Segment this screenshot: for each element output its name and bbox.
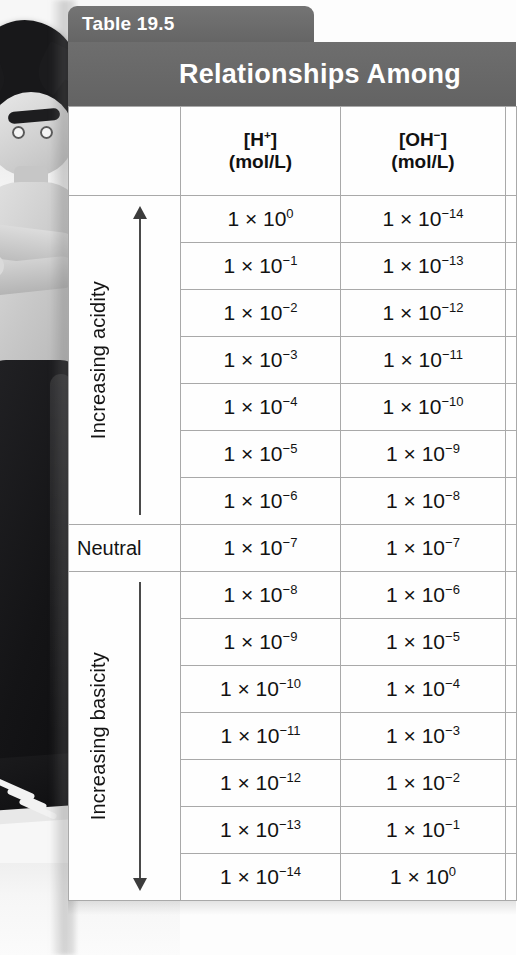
hydroxide-concentration-cell: 1 × 100 [341,854,506,901]
table-body: Increasing acidity1 × 1001 × 10−141 × 10… [69,196,517,901]
hydrogen-concentration-cell: 1 × 10−4 [181,384,341,431]
hydroxide-concentration-cell: 1 × 10−8 [341,478,506,525]
truncated-cell [506,196,517,243]
truncated-cell [506,854,517,901]
table-row: Increasing acidity1 × 1001 × 10−14 [69,196,517,243]
hydrogen-concentration-cell: 1 × 10−9 [181,619,341,666]
table-row: Increasing basicity1 × 10−81 × 10−6 [69,572,517,619]
column-header-truncated [506,107,517,196]
truncated-cell [506,807,517,854]
scale-label-increasing-basicity: Increasing basicity [69,572,181,901]
figure-eye-left [12,126,25,139]
column-header-hydroxide: [OH−] (mol/L) [341,107,506,196]
column-header-hydroxide-formula: [OH−] [341,129,505,151]
hydroxide-concentration-cell: 1 × 10−1 [341,807,506,854]
column-header-hydrogen: [H+] (mol/L) [181,107,341,196]
table-figure: Table 19.5 Relationships Among [H+] (mol… [68,6,516,901]
hydroxide-concentration-cell: 1 × 10−12 [341,290,506,337]
hydrogen-concentration-cell: 1 × 10−14 [181,854,341,901]
scale-label-neutral: Neutral [69,525,181,572]
truncated-cell [506,525,517,572]
ph-concentration-table: [H+] (mol/L) [OH−] (mol/L) Increasing ac… [68,106,517,901]
table-head: [H+] (mol/L) [OH−] (mol/L) [69,107,517,196]
increasing-basicity-label: Increasing basicity [87,652,110,820]
hydrogen-concentration-cell: 1 × 10−2 [181,290,341,337]
hydrogen-concentration-cell: 1 × 10−12 [181,760,341,807]
hydrogen-concentration-cell: 1 × 100 [181,196,341,243]
hydroxide-concentration-cell: 1 × 10−13 [341,243,506,290]
hydrogen-concentration-cell: 1 × 10−8 [181,572,341,619]
column-header-hydrogen-units: (mol/L) [181,151,340,173]
hydrogen-concentration-cell: 1 × 10−7 [181,525,341,572]
truncated-cell [506,619,517,666]
column-header-hydrogen-formula: [H+] [181,129,340,151]
basicity-arrow-shaft [139,582,141,879]
hydroxide-concentration-cell: 1 × 10−14 [341,196,506,243]
basicity-arrow-head-down-icon [133,878,147,891]
hydrogen-concentration-cell: 1 × 10−10 [181,666,341,713]
hydrogen-concentration-cell: 1 × 10−11 [181,713,341,760]
column-header-hydroxide-units: (mol/L) [341,151,505,173]
hydrogen-concentration-cell: 1 × 10−5 [181,431,341,478]
hydroxide-concentration-cell: 1 × 10−5 [341,619,506,666]
table-number-tab: Table 19.5 [68,6,314,42]
hydrogen-concentration-cell: 1 × 10−13 [181,807,341,854]
hydrogen-concentration-cell: 1 × 10−6 [181,478,341,525]
hydroxide-concentration-cell: 1 × 10−3 [341,713,506,760]
hydroxide-concentration-cell: 1 × 10−7 [341,525,506,572]
truncated-cell [506,713,517,760]
hydroxide-concentration-cell: 1 × 10−10 [341,384,506,431]
truncated-cell [506,572,517,619]
table-row: Neutral1 × 10−71 × 10−7 [69,525,517,572]
hydrogen-concentration-cell: 1 × 10−3 [181,337,341,384]
column-header-scale [69,107,181,196]
table-bottom-shade [68,901,516,915]
acidity-arrow-shaft [139,218,141,515]
truncated-cell [506,384,517,431]
truncated-cell [506,666,517,713]
hydroxide-concentration-cell: 1 × 10−6 [341,572,506,619]
hydroxide-concentration-cell: 1 × 10−11 [341,337,506,384]
acidity-arrow-head-up-icon [133,206,147,219]
neutral-label: Neutral [69,537,180,560]
increasing-acidity-label: Increasing acidity [87,281,110,439]
truncated-cell [506,290,517,337]
hydroxide-concentration-cell: 1 × 10−4 [341,666,506,713]
truncated-cell [506,478,517,525]
hydrogen-concentration-cell: 1 × 10−1 [181,243,341,290]
table-header-row: [H+] (mol/L) [OH−] (mol/L) [69,107,517,196]
truncated-cell [506,760,517,807]
hydroxide-concentration-cell: 1 × 10−2 [341,760,506,807]
truncated-cell [506,243,517,290]
truncated-cell [506,337,517,384]
truncated-cell [506,431,517,478]
table-title: Relationships Among [68,42,516,106]
scale-label-increasing-acidity: Increasing acidity [69,196,181,525]
hydroxide-concentration-cell: 1 × 10−9 [341,431,506,478]
